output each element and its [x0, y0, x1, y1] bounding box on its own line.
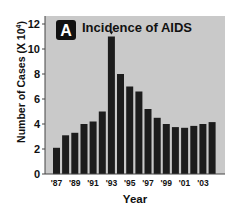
bar-2004: [209, 122, 216, 174]
aids-incidence-chart: 024681012 '87'89'91'93'95'97'99'01'03 A …: [0, 0, 237, 214]
x-tick-label: '87: [51, 178, 63, 188]
y-tick-label: 8: [34, 68, 40, 80]
panel-badge: A: [56, 20, 76, 40]
panel-badge-letter: A: [60, 22, 72, 39]
bar-1998: [154, 118, 161, 174]
x-tick-label: '91: [87, 178, 99, 188]
bar-1987: [53, 148, 60, 174]
bar-1994: [117, 74, 124, 174]
y-tick-label: 12: [28, 18, 40, 30]
x-tick-label: '03: [197, 178, 209, 188]
bar-2002: [190, 126, 197, 174]
bar-1996: [135, 92, 142, 175]
y-tick-label: 0: [34, 168, 40, 180]
x-tick-label: '99: [161, 178, 173, 188]
bar-1995: [126, 87, 133, 175]
x-tick-label: '97: [142, 178, 154, 188]
x-tick-label: '95: [124, 178, 136, 188]
y-ticks: 024681012: [28, 18, 45, 180]
y-tick-label: 6: [34, 93, 40, 105]
x-tick-label: '93: [106, 178, 118, 188]
y-axis-label-text: Number of Cases (X 10: [15, 28, 27, 143]
bar-1990: [81, 124, 88, 174]
bar-1989: [71, 133, 78, 174]
bar-1999: [163, 124, 170, 174]
y-axis-label: Number of Cases (X 104): [15, 21, 27, 143]
bar-1992: [99, 112, 106, 175]
bar-1991: [90, 122, 97, 175]
bar-2001: [181, 128, 188, 174]
x-tick-label: '01: [179, 178, 191, 188]
bar-1997: [145, 109, 152, 174]
bar-2000: [172, 127, 179, 174]
y-tick-label: 4: [34, 118, 41, 130]
y-tick-label: 2: [34, 143, 40, 155]
bar-2003: [199, 124, 206, 174]
bar-1988: [62, 135, 69, 174]
chart-title: Incidence of AIDS: [82, 20, 192, 35]
bar-1993: [108, 37, 115, 175]
x-axis-label: Year: [123, 193, 148, 205]
x-tick-labels: '87'89'91'93'95'97'99'01'03: [51, 178, 209, 188]
y-axis-label-close: ): [15, 21, 27, 25]
x-tick-label: '89: [69, 178, 81, 188]
y-tick-label: 10: [28, 43, 40, 55]
